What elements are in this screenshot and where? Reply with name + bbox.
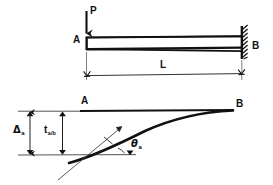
theta-glyph: θ [131, 138, 138, 149]
t-glyph: t [44, 124, 47, 135]
span-label-l: L [160, 60, 166, 70]
load-label-p: P [90, 6, 97, 16]
figure-canvas [0, 0, 273, 185]
delta-dimension [27, 111, 34, 154]
node-label-b-top: B [252, 41, 259, 51]
node-label-b-bottom: B [236, 99, 243, 109]
delta-subscript: a [21, 130, 24, 136]
beam-body [86, 36, 242, 51]
slope-label-theta-a: θa [131, 139, 141, 149]
node-label-a-top: A [73, 35, 80, 45]
deflection-label-delta-a: Δa [13, 125, 24, 135]
slope-angle-arc [118, 148, 125, 153]
beam-deflection-figure: P A B L A B Δa ta/b θa [0, 0, 273, 185]
t-subscript: a/b [48, 130, 56, 136]
node-label-a-bottom: A [81, 96, 88, 106]
delta-glyph: Δ [13, 124, 21, 135]
span-dimension-line [84, 69, 245, 76]
deflected-curve [69, 111, 233, 164]
tangential-deviation-dimension [59, 111, 66, 154]
tangent-line-at-a [58, 127, 122, 180]
fixed-support-wall [242, 25, 248, 59]
undeformed-axis [80, 110, 234, 111]
theta-subscript: a [138, 144, 141, 150]
tangential-deviation-label-t-ab: ta/b [44, 125, 55, 135]
